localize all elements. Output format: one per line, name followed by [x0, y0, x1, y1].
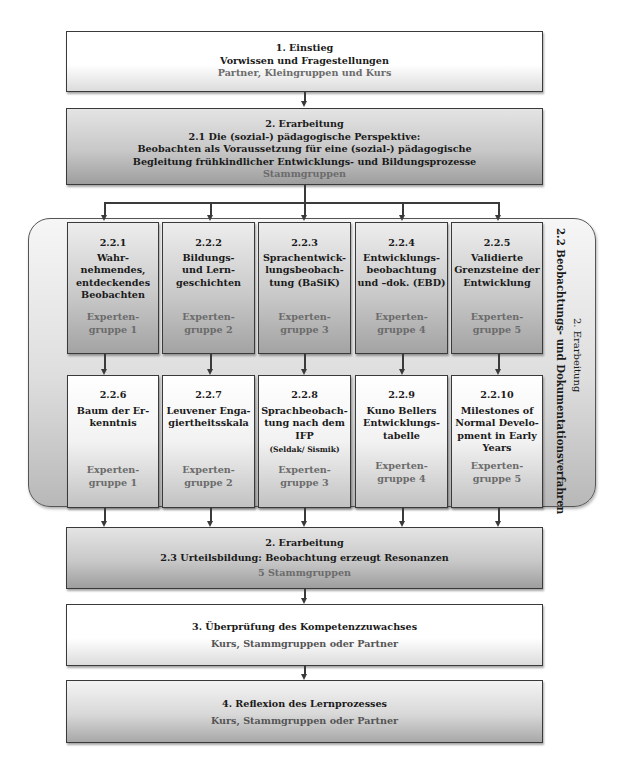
method-title-line: Kuno Bellers [356, 405, 447, 418]
method-box-2-2-5: 2.2.5 Validierte Grenzsteine der Entwick… [451, 222, 543, 354]
method-box-2-2-4: 2.2.4 Entwicklungs- beobachtung und –dok… [355, 222, 448, 354]
method-title-line: pment in Early [452, 430, 542, 443]
method-box-2-2-1: 2.2.1 Wahr- nehmendes, entdeckendes Beob… [67, 222, 159, 354]
connector [304, 354, 306, 370]
step2-3-box: 2. Erarbeitung 2.3 Urteilsbildung: Beoba… [66, 527, 543, 589]
method-number: 2.2.1 [68, 237, 158, 250]
method-title-line: entdeckendes [68, 277, 158, 290]
method-box-2-2-6: 2.2.6 Baum der Er- kenntnis Experten-gru… [67, 375, 159, 508]
method-title-line: Entwicklungs- [356, 252, 447, 265]
arrow-icon [101, 215, 107, 221]
step3-groups: Kurs, Stammgruppen oder Partner [67, 635, 542, 652]
connector-drop [498, 202, 500, 216]
method-title-line: Entwicklung [452, 277, 542, 290]
step3-title: 3. Überprüfung des Kompetenzzuwachses [67, 618, 542, 635]
method-title-line: Validierte [452, 252, 542, 265]
expert-group: Experten-gruppe 3 [259, 464, 350, 489]
method-number: 2.2.2 [163, 237, 254, 250]
expert-group: Experten-gruppe 2 [163, 311, 254, 336]
connector [498, 354, 500, 370]
method-box-2-2-9: 2.2.9 Kuno Bellers Entwicklungs- tabelle… [355, 375, 448, 508]
step3-box: 3. Überprüfung des Kompetenzzuwachses Ku… [66, 604, 543, 666]
step2-1-line1: Beobachten als Voraussetzung für eine (s… [67, 143, 542, 156]
connector-drop [104, 202, 106, 216]
panel-label-outer: 2. Erarbeitung [572, 318, 583, 392]
connector [402, 354, 404, 370]
method-title-line: giertheitsskala [163, 417, 254, 430]
method-title-line: Grenzsteine der [452, 264, 542, 277]
method-title-line: Normal Develo- [452, 417, 542, 430]
method-box-2-2-10: 2.2.10 Milestones of Normal Develo- pmen… [451, 375, 543, 508]
connector-trunk [304, 185, 306, 203]
method-number: 2.2.9 [356, 389, 447, 402]
method-title-line: Bildungs- [163, 252, 254, 265]
arrow-icon [399, 215, 405, 221]
method-title-line: Years [452, 442, 542, 455]
expert-group: Experten-gruppe 4 [356, 460, 447, 485]
step2-3-heading: 2.3 Urteilsbildung: Beobachtung erzeugt … [67, 550, 542, 565]
arrow-icon [301, 215, 307, 221]
step2-1-heading: 2.1 Die (sozial-) pädagogische Perspekti… [67, 131, 542, 144]
method-box-2-2-8: 2.2.8 Sprachbeobach- tung nach dem IFP (… [258, 375, 351, 508]
step4-title: 4. Reflexion des Lernprozesses [67, 695, 542, 712]
method-number: 2.2.8 [259, 389, 350, 402]
method-number: 2.2.3 [259, 237, 350, 250]
step2-1-line2: Begleitung frühkindlicher Entwicklungs- … [67, 156, 542, 169]
method-number: 2.2.5 [452, 237, 542, 250]
expert-group: Experten-gruppe 5 [452, 311, 542, 336]
connector-drop [210, 202, 212, 216]
method-title-line: lungsbeobach- [259, 264, 350, 277]
method-title-line: Sprachentwick- [259, 252, 350, 265]
method-number: 2.2.6 [68, 389, 158, 402]
connector-drop [304, 202, 306, 216]
method-title-line: Milestones of [452, 405, 542, 418]
step1-title: 1. Einstieg [67, 42, 542, 55]
method-box-2-2-7: 2.2.7 Leuvener Enga- giertheitsskala Exp… [162, 375, 255, 508]
connector [104, 354, 106, 370]
method-title-line: und Lern- [163, 264, 254, 277]
method-title-line: Beobachten [68, 289, 158, 302]
method-title-line: nehmendes, [68, 264, 158, 277]
connector-drop [402, 202, 404, 216]
method-box-2-2-3: 2.2.3 Sprachentwick- lungsbeobach- tung … [258, 222, 351, 354]
method-title-line: kenntnis [68, 417, 158, 430]
step2-1-groups: Stammgruppen [67, 168, 542, 181]
method-box-2-2-2: 2.2.2 Bildungs- und Lern- geschichten Ex… [162, 222, 255, 354]
step2-1-box: 2. Erarbeitung 2.1 Die (sozial-) pädagog… [66, 108, 543, 185]
method-number: 2.2.7 [163, 389, 254, 402]
expert-group: Experten-gruppe 3 [259, 311, 350, 336]
method-number: 2.2.10 [452, 389, 542, 402]
step1-groups: Partner, Kleingruppen und Kurs [67, 67, 542, 80]
step2-3-groups: 5 Stammgruppen [67, 565, 542, 580]
expert-group: Experten-gruppe 5 [452, 460, 542, 485]
method-title-line: und –dok. (EBD) [356, 277, 447, 290]
method-title-line: Leuvener Enga- [163, 405, 254, 418]
step4-box: 4. Reflexion des Lernprozesses Kurs, Sta… [66, 680, 543, 743]
arrow-icon [207, 215, 213, 221]
expert-group: Experten-gruppe 4 [356, 311, 447, 336]
method-title-line: Sprachbeobach- [259, 405, 350, 418]
step2-1-title: 2. Erarbeitung [67, 118, 542, 131]
connector-horizontal [104, 202, 499, 204]
step2-3-title: 2. Erarbeitung [67, 535, 542, 550]
arrow-icon [495, 215, 501, 221]
step1-box: 1. Einstieg Vorwissen und Fragestellunge… [66, 31, 543, 92]
method-title-line: Baum der Er- [68, 405, 158, 418]
expert-group: Experten-gruppe 1 [68, 464, 158, 489]
method-title-line: tung (BaSiK) [259, 277, 350, 290]
expert-group: Experten-gruppe 2 [163, 464, 254, 489]
method-title-line: tabelle [356, 430, 447, 443]
step1-subtitle: Vorwissen und Fragestellungen [67, 55, 542, 68]
connector [210, 354, 212, 370]
method-note: (Seldak/ Sismik) [259, 444, 350, 457]
method-title-line: beobachtung [356, 264, 447, 277]
method-number: 2.2.4 [356, 237, 447, 250]
method-title-line: Entwicklungs- [356, 417, 447, 430]
expert-group: Experten-gruppe 1 [68, 311, 158, 336]
arrow-icon [301, 101, 307, 107]
step4-groups: Kurs, Stammgruppen oder Partner [67, 712, 542, 729]
method-title-line: IFP [259, 430, 350, 443]
panel-label-inner: 2.2 Beobachtungs- und Dokumentationsverf… [555, 228, 567, 498]
method-title-line: tung nach dem [259, 417, 350, 430]
method-title-line: Wahr- [68, 252, 158, 265]
